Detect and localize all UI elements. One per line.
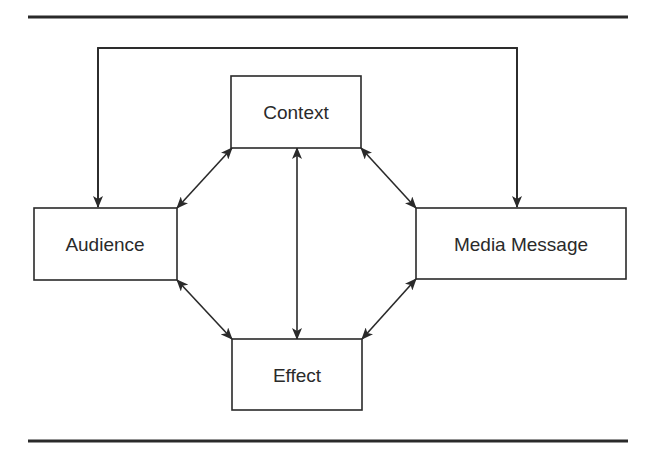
node-effect-label: Effect [273, 365, 322, 386]
media-effects-diagram: Context Audience Media Message Effect [0, 0, 659, 451]
arrow-audience-context [177, 148, 232, 208]
node-media-message: Media Message [416, 208, 626, 279]
node-effect: Effect [232, 339, 362, 410]
node-audience: Audience [34, 208, 177, 280]
node-context-label: Context [263, 102, 329, 123]
arrow-context-media-message [361, 148, 416, 208]
arrow-audience-effect [177, 280, 232, 339]
arrow-effect-media-message [362, 279, 416, 339]
node-audience-label: Audience [65, 234, 144, 255]
node-media-message-label: Media Message [454, 234, 588, 255]
node-context: Context [231, 76, 361, 148]
